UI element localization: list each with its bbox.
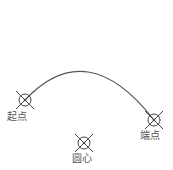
end-point-label: 端点 (140, 130, 160, 141)
start-point-marker-icon (16, 91, 34, 109)
start-point-label: 起点 (7, 111, 27, 122)
arc-diagram (0, 0, 173, 170)
center-point-label: 圆心 (72, 153, 92, 164)
arc-curve (25, 71, 154, 120)
center-point-marker-icon (75, 134, 93, 152)
end-point-marker-icon (145, 111, 163, 129)
